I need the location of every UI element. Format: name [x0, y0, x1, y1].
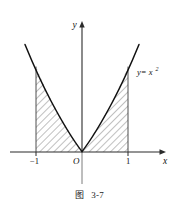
origin-label: O [73, 156, 80, 166]
plot-area: y x O −1 1 y= x 2 [0, 0, 179, 186]
figure-container: y x O −1 1 y= x 2 图3-7 [0, 0, 179, 212]
y-axis-arrow-icon [79, 21, 84, 28]
caption-prefix: 图 [75, 190, 84, 200]
tick-label-pos-one: 1 [126, 156, 130, 166]
x-axis-arrow-icon [160, 149, 167, 154]
curve-equation-exponent: 2 [156, 66, 159, 72]
curve-equation-base: y= x [136, 67, 153, 77]
tick-label-neg-one: −1 [30, 156, 39, 166]
curve-equation-label: y= x 2 [136, 66, 159, 77]
y-axis-label: y [72, 20, 78, 30]
figure-caption: 图3-7 [0, 188, 179, 201]
caption-number: 3-7 [91, 190, 104, 200]
plot-svg: y x O −1 1 y= x 2 [0, 0, 179, 186]
x-axis-label: x [162, 156, 168, 166]
